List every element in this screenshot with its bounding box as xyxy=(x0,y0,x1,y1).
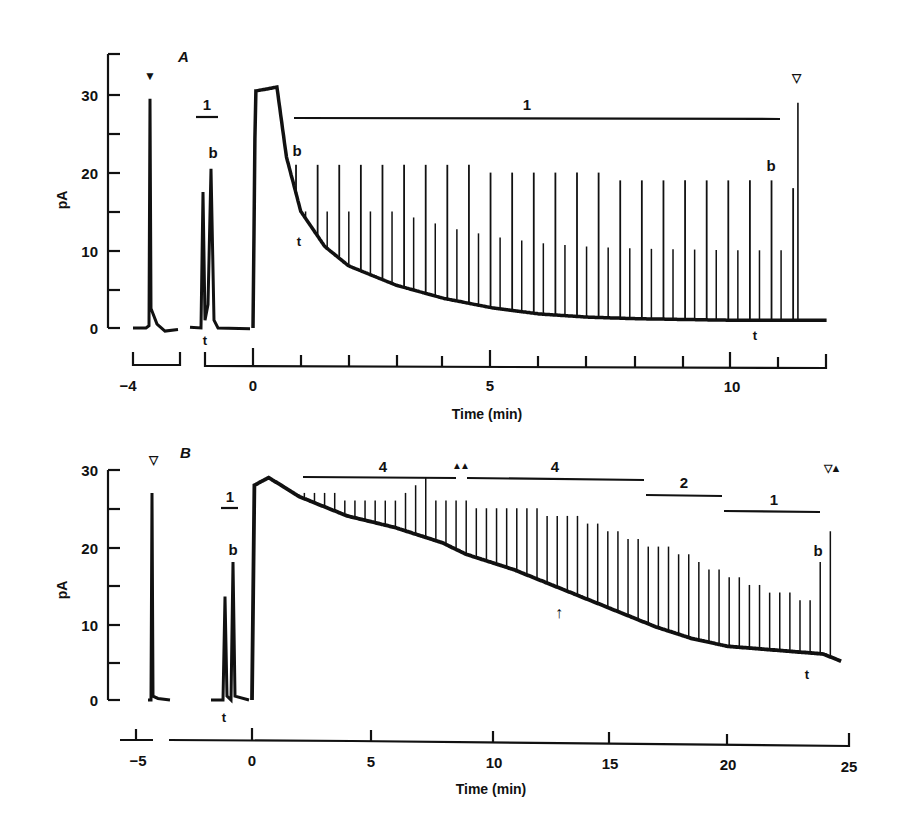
panel-b-open-triangle-marker: ▽ xyxy=(148,453,159,467)
panel-b-label-t-1: t xyxy=(222,710,227,725)
panel-b-x-title: Time (min) xyxy=(456,781,527,797)
panel-a-stimulus-bar-1b-label: 1 xyxy=(523,96,531,113)
panel-b-stimulus-bar-1b-label: 1 xyxy=(770,491,778,508)
panel-b-stimulus-bar-2 xyxy=(646,495,722,496)
panel-b-paired-triangle-marker: ▲▲ xyxy=(452,460,468,471)
panel-a-xtick-minus4: −4 xyxy=(119,377,137,394)
panel-b-label-b-2: b xyxy=(813,542,822,559)
panel-b-stimulus-bar-4a xyxy=(303,477,456,478)
panel-b-ytick-0: 0 xyxy=(90,692,98,709)
panel-b-ytick-30: 30 xyxy=(81,462,98,479)
panel-b-stimulus-bar-4a-label: 4 xyxy=(379,458,388,475)
panel-a-ytick-20: 20 xyxy=(81,165,98,182)
panel-b-xtick-minus5: −5 xyxy=(129,752,146,769)
panel-b-y-title: pA xyxy=(54,581,70,600)
panel-b-xtick-25: 25 xyxy=(841,758,858,775)
panel-b-label: B xyxy=(180,444,191,461)
panel-a-ytick-30: 30 xyxy=(81,87,98,104)
panel-a-y-title: pA xyxy=(54,191,70,210)
panel-b-ytick-20: 20 xyxy=(81,540,98,557)
panel-b-ytick-10: 10 xyxy=(81,617,98,634)
panel-a-ytick-0: 0 xyxy=(90,320,98,337)
panel-b-open-filled-triangle-marker: ▽▲ xyxy=(823,462,841,474)
panel-a-x-axis xyxy=(133,348,826,368)
panel-a-filled-triangle-marker: ▼ xyxy=(144,69,156,83)
panel-a-label-t-3: t xyxy=(753,328,758,343)
panel-a-label-t-1: t xyxy=(203,333,208,348)
panel-a-x-title: Time (min) xyxy=(452,406,523,422)
panel-b-x-axis xyxy=(120,728,849,746)
panel-b-xtick-0: 0 xyxy=(248,752,256,769)
panel-a-xtick-0: 0 xyxy=(249,377,257,394)
figure: A 0 10 20 30 pA xyxy=(0,0,904,832)
panel-a: A 0 10 20 30 pA xyxy=(54,48,827,422)
panel-a-stimulus-bar-1b xyxy=(294,118,780,119)
panel-b-stimulus-bar-1b xyxy=(724,511,820,512)
panel-a-label: A xyxy=(177,48,189,65)
panel-a-xtick-10: 10 xyxy=(724,378,741,395)
panel-b: B 0 10 20 30 pA −5 0 5 10 xyxy=(54,444,857,797)
panel-b-stimulus-bar-2-label: 2 xyxy=(680,474,688,491)
panel-a-trace xyxy=(133,87,827,331)
panel-b-stimulus-bar-4b-label: 4 xyxy=(551,458,560,475)
panel-a-open-triangle-marker: ▽ xyxy=(791,71,802,85)
panel-b-xtick-5: 5 xyxy=(367,753,375,770)
panel-b-xtick-20: 20 xyxy=(720,756,737,773)
panel-b-xtick-15: 15 xyxy=(602,755,619,772)
panel-b-stimulus-bar-1a-label: 1 xyxy=(226,488,234,505)
panel-b-y-axis xyxy=(108,470,120,700)
panel-b-label-b-1: b xyxy=(228,541,237,558)
panel-b-stimulus-bar-4b xyxy=(467,478,644,480)
panel-b-arrow-up-icon: ↑ xyxy=(555,604,563,621)
panel-b-xtick-10: 10 xyxy=(486,754,503,771)
panel-a-y-axis xyxy=(108,54,120,328)
panel-a-stimulus-bar-1a-label: 1 xyxy=(203,96,211,113)
panel-a-label-b-1: b xyxy=(208,144,217,161)
panel-b-label-t-2: t xyxy=(805,667,810,682)
panel-a-label-b-2: b xyxy=(292,142,301,159)
panel-a-xtick-5: 5 xyxy=(486,377,494,394)
panel-a-ytick-10: 10 xyxy=(81,243,98,260)
panel-a-label-b-3: b xyxy=(766,157,775,174)
panel-a-label-t-2: t xyxy=(297,234,302,249)
